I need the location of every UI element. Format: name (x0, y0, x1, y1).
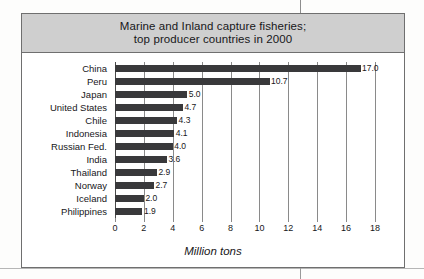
plot-wrapper: ChinaPeruJapanUnited StatesChileIndonesi… (22, 53, 404, 267)
category-label: Russian Fed. (51, 140, 107, 153)
category-label: Japan (81, 88, 107, 101)
bar (115, 156, 167, 163)
tick-mark (259, 218, 260, 222)
bar (115, 195, 144, 202)
tick-mark (317, 218, 318, 222)
tick-label: 4 (170, 223, 175, 234)
tick-mark (115, 218, 116, 222)
bar-value-label: 2.0 (145, 193, 157, 204)
gridline (375, 62, 376, 218)
tick-mark (202, 218, 203, 222)
chart-figure: Marine and Inland capture fisheries; top… (21, 13, 405, 268)
tick-label: 16 (341, 223, 351, 234)
tick-label: 2 (141, 223, 146, 234)
tick-mark (288, 218, 289, 222)
category-label: Thailand (71, 166, 107, 179)
bar-row: 2.7 (115, 179, 375, 192)
tick-label: 8 (228, 223, 233, 234)
bar-row: 3.6 (115, 153, 375, 166)
bar-row: 4.1 (115, 127, 375, 140)
bar-row: 4.0 (115, 140, 375, 153)
bar (115, 91, 187, 98)
category-label: United States (50, 101, 107, 114)
bar-value-label: 3.6 (169, 154, 181, 165)
bar (115, 117, 177, 124)
bar-value-label: 4.7 (184, 102, 196, 113)
category-label: Chile (85, 114, 107, 127)
bar-row: 1.9 (115, 205, 375, 218)
tick-mark (375, 218, 376, 222)
tick-mark (173, 218, 174, 222)
tick-label: 10 (254, 223, 264, 234)
bar-value-label: 2.9 (158, 167, 170, 178)
bar (115, 143, 173, 150)
tick-label: 0 (112, 223, 117, 234)
bar (115, 65, 361, 72)
bar-value-label: 4.0 (174, 141, 186, 152)
bar-row: 10.7 (115, 75, 375, 88)
bar-value-label: 4.3 (179, 115, 191, 126)
category-label: China (82, 62, 107, 75)
chart-title-band: Marine and Inland capture fisheries; top… (22, 14, 404, 53)
bar (115, 169, 157, 176)
x-axis-ticks: 024681012141618 (115, 218, 375, 238)
bar-row: 2.9 (115, 166, 375, 179)
category-label: India (86, 153, 107, 166)
x-axis-title: Million tons (22, 245, 404, 257)
tick-label: 12 (283, 223, 293, 234)
bar-value-label: 2.7 (156, 180, 168, 191)
bar (115, 130, 174, 137)
bar-row: 4.7 (115, 101, 375, 114)
chart-title-line-2: top producer countries in 2000 (120, 33, 306, 47)
category-label: Norway (75, 179, 107, 192)
category-label: Indonesia (66, 127, 107, 140)
bar-value-label: 1.9 (144, 206, 156, 217)
category-label: Peru (87, 75, 107, 88)
bar-row: 2.0 (115, 192, 375, 205)
tick-mark (144, 218, 145, 222)
tick-label: 14 (312, 223, 322, 234)
tick-label: 6 (199, 223, 204, 234)
plot-area: 17.010.75.04.74.34.14.03.62.92.72.01.9 (115, 62, 375, 218)
chart-title-line-1: Marine and Inland capture fisheries; (120, 20, 306, 32)
scan-artifact-line-bottom (0, 268, 424, 269)
category-axis-labels: ChinaPeruJapanUnited StatesChileIndonesi… (22, 62, 111, 218)
bar (115, 104, 183, 111)
scan-artifact-tick-bottom (300, 268, 301, 279)
category-label: Philippines (61, 205, 107, 218)
bar-value-label: 4.1 (176, 128, 188, 139)
page-title: Marine and Inland capture fisheries; top… (120, 20, 306, 47)
bar-value-label: 10.7 (271, 76, 288, 87)
bar-value-label: 5.0 (189, 89, 201, 100)
bar-value-label: 17.0 (362, 63, 379, 74)
bar-row: 4.3 (115, 114, 375, 127)
bar (115, 208, 142, 215)
tick-mark (231, 218, 232, 222)
bar-row: 17.0 (115, 62, 375, 75)
bar (115, 182, 154, 189)
tick-mark (346, 218, 347, 222)
category-label: Iceland (76, 192, 107, 205)
bar-row: 5.0 (115, 88, 375, 101)
tick-label: 18 (370, 223, 380, 234)
bar (115, 78, 270, 85)
